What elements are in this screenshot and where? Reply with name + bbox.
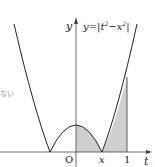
y-axis-label: y bbox=[65, 20, 73, 33]
graph: y y=|t2−x2| O x 1 t bbox=[0, 0, 155, 167]
origin-label: O bbox=[65, 154, 73, 165]
t-axis-arrow-icon bbox=[146, 150, 152, 154]
one-tick-label: 1 bbox=[124, 154, 130, 165]
x-tick-label: x bbox=[99, 154, 105, 165]
y-axis-arrow-icon bbox=[74, 17, 78, 24]
equation-label: y=|t2−x2| bbox=[82, 20, 130, 33]
shaded-area bbox=[76, 77, 127, 152]
t-axis-label: t bbox=[144, 155, 149, 167]
